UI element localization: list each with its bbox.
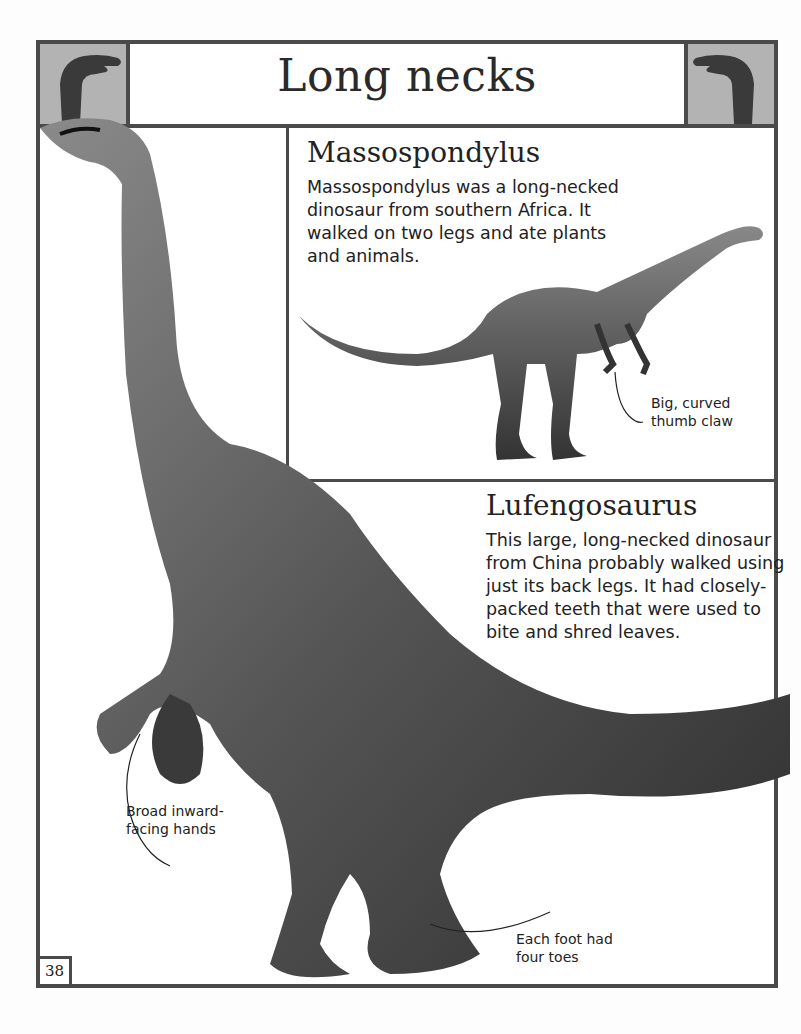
page-frame: Long necks Massospondylus Massospondylus… [36, 40, 778, 988]
hands-caption: Broad inward-facing hands [126, 802, 236, 838]
feet-caption: Each foot had four toes [516, 930, 636, 966]
lufengosaurus-title: Lufengosaurus [486, 489, 697, 522]
page-title: Long necks [130, 50, 684, 101]
page-number: 38 [40, 956, 72, 984]
dinosaur-silhouette-icon [40, 44, 126, 124]
dinosaur-silhouette-icon [688, 44, 774, 124]
lufengosaurus-description: This large, long-necked dinosaur from Ch… [486, 529, 786, 644]
header-icon-box-left [40, 44, 130, 124]
header-icon-box-right [684, 44, 774, 124]
